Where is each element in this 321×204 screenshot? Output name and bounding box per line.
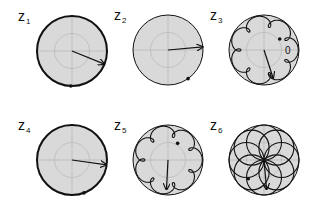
endpoint-dot xyxy=(176,142,180,146)
panel-z6: z6 xyxy=(210,117,299,195)
panel-z5: z5 xyxy=(114,117,203,195)
panel-z4: z4 xyxy=(18,117,107,195)
panel-z2: z2 xyxy=(114,7,203,85)
panel-label: z1 xyxy=(18,8,31,26)
panel-label: z4 xyxy=(18,117,31,135)
endpoint-dot xyxy=(69,84,73,88)
endpoint-dot xyxy=(186,77,190,81)
panel-label: z5 xyxy=(114,117,127,135)
panel-label: z6 xyxy=(210,117,223,135)
zero-axis-label: 0 xyxy=(285,45,291,56)
panel-z1: z1 xyxy=(18,8,107,88)
endpoint-dot xyxy=(278,37,282,41)
endpoint-dot xyxy=(82,191,86,195)
endpoint-dot xyxy=(246,177,250,181)
panel-label: z2 xyxy=(114,7,127,25)
panel-label: z3 xyxy=(210,7,223,25)
phasor-figure: z1z2z3z4z5z6 0 xyxy=(0,0,321,204)
